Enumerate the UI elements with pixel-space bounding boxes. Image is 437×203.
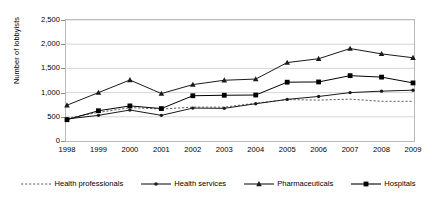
- data-point-marker: [128, 104, 133, 109]
- legend-swatch-icon: [244, 179, 274, 189]
- series-line: [67, 76, 413, 120]
- data-point-marker: [223, 107, 226, 110]
- data-point-marker: [285, 80, 290, 85]
- legend-item-health-professionals[interactable]: Health professionals: [21, 179, 123, 189]
- data-point-marker: [254, 102, 257, 105]
- data-point-marker: [411, 88, 414, 91]
- legend-item-hospitals[interactable]: Hospitals: [351, 179, 415, 189]
- data-point-marker: [190, 93, 195, 98]
- data-point-marker: [159, 106, 164, 111]
- data-point-marker: [222, 93, 227, 98]
- lobbyists-line-chart: Number of lobbyists 05001,0001,5002,0002…: [0, 0, 437, 203]
- data-point-marker: [160, 114, 163, 117]
- series-line: [67, 99, 413, 118]
- data-point-marker: [97, 114, 100, 117]
- legend-label: Health professionals: [54, 180, 123, 188]
- data-point-marker: [347, 46, 353, 51]
- data-point-marker: [348, 91, 351, 94]
- legend-swatch-icon: [141, 179, 171, 189]
- data-point-marker: [316, 80, 321, 85]
- data-point-marker: [411, 81, 416, 86]
- data-point-marker: [364, 182, 369, 187]
- x-tick-label: 2009: [393, 146, 433, 154]
- legend-label: Hospitals: [384, 180, 415, 188]
- data-point-marker: [285, 98, 288, 101]
- y-tick-label: 0: [22, 137, 60, 145]
- data-point-marker: [127, 77, 133, 82]
- y-tick-label: 1,500: [22, 64, 60, 72]
- plot-svg: [66, 20, 414, 141]
- data-point-marker: [317, 95, 320, 98]
- y-tick-label: 2,000: [22, 40, 60, 48]
- data-point-marker: [155, 182, 158, 185]
- y-tick-label: 2,500: [22, 16, 60, 24]
- series-hospitals: [65, 73, 416, 122]
- legend-item-pharmaceuticals[interactable]: Pharmaceuticals: [244, 179, 333, 189]
- data-point-marker: [253, 93, 258, 98]
- y-tick-label: 500: [22, 113, 60, 121]
- data-point-marker: [348, 73, 353, 78]
- data-point-marker: [380, 89, 383, 92]
- series-line: [67, 49, 413, 106]
- legend-item-health-services[interactable]: Health services: [141, 179, 226, 189]
- y-tick-label: 1,000: [22, 89, 60, 97]
- legend-swatch-icon: [351, 179, 381, 189]
- legend-label: Pharmaceuticals: [277, 180, 333, 188]
- series-health-professionals: [67, 99, 413, 118]
- data-point-marker: [128, 108, 131, 111]
- legend-swatch-icon: [21, 179, 51, 189]
- legend-label: Health services: [174, 180, 226, 188]
- series-line: [67, 90, 413, 119]
- data-point-marker: [191, 106, 194, 109]
- series-health-services: [65, 88, 414, 120]
- data-point-marker: [65, 117, 70, 122]
- plot-area: [65, 19, 415, 142]
- chart-legend: Health professionalsHealth servicesPharm…: [0, 179, 437, 189]
- data-point-marker: [96, 108, 101, 113]
- data-point-marker: [379, 75, 384, 80]
